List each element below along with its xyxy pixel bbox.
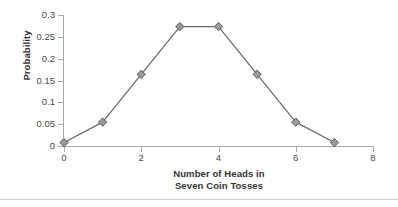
plot-area [64,15,373,146]
y-tick-label: 0.15 [37,76,56,86]
y-axis-title: Probability [21,21,32,91]
x-tick-label: 4 [209,153,229,163]
probability-series [64,15,373,146]
x-axis-title-line-2: Seven Coin Tosses [64,180,374,192]
y-tick [58,81,63,82]
y-tick-label: 0.25 [37,32,56,42]
x-axis-title-line-1: Number of Heads in [173,168,265,179]
x-tick-label: 6 [286,153,306,163]
y-tick [58,15,63,16]
y-tick-label: 0 [50,141,55,151]
y-tick [58,59,63,60]
x-axis-title: Number of Heads in Seven Coin Tosses [64,168,374,192]
series-markers [60,22,339,146]
x-tick-label: 8 [363,153,383,163]
x-tick-label: 2 [131,153,151,163]
y-tick [58,124,63,125]
y-tick [58,146,63,147]
y-tick-label: 0.3 [42,10,55,20]
y-tick [58,37,63,38]
y-tick-label: 0.1 [42,97,55,107]
y-tick-label: 0.05 [37,119,56,129]
y-tick [58,102,63,103]
x-tick-label: 0 [54,153,74,163]
y-tick-label: 0.2 [42,54,55,64]
data-point-marker [330,138,338,146]
series-line [64,27,334,143]
chart-figure: Probability 00.050.10.150.20.250.3 02468… [0,0,398,207]
bottom-divider [0,199,398,200]
